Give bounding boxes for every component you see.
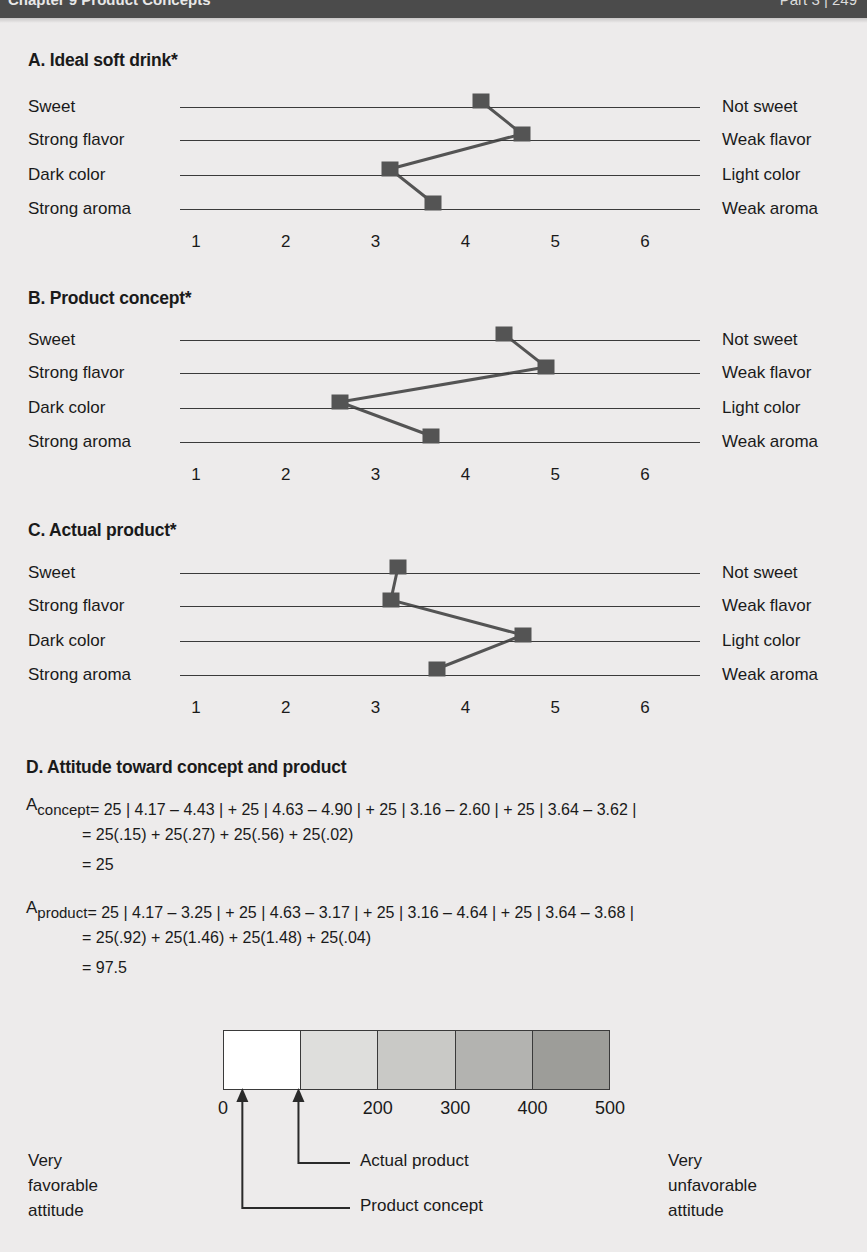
scale-caption-favorable: Veryfavorableattitude (28, 1148, 98, 1223)
scale-caption-unfavorable: Veryunfavorableattitude (668, 1148, 757, 1223)
scale-leader-lines (0, 0, 867, 1252)
page-root: Chapter 9 Product Concepts Part 3 | 249 … (0, 0, 867, 1252)
